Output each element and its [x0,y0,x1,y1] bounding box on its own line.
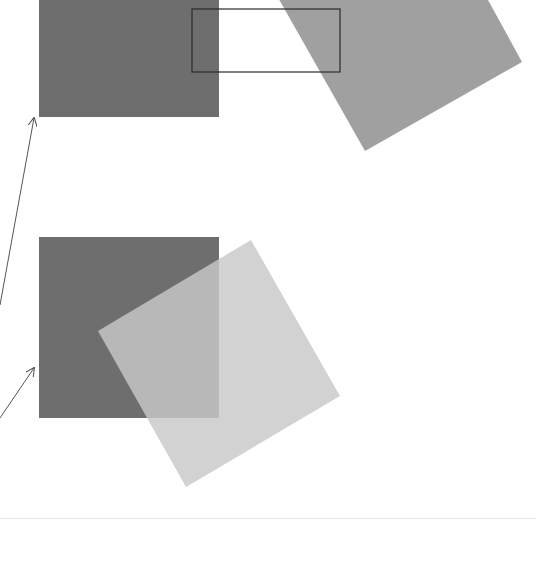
bottom-panel [0,237,340,487]
page-divider [0,518,536,519]
diagram-canvas [0,0,536,564]
arrow-to-bottom-square [0,368,34,418]
arrow-to-top-square [0,118,34,305]
rotated-square-top [251,0,522,151]
